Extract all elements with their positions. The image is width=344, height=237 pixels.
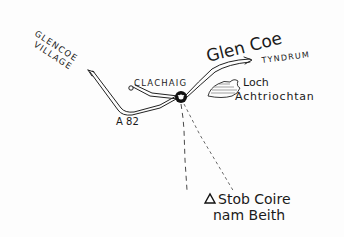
- label-loch-line2: Achtriochtan: [235, 90, 315, 103]
- label-clachaig: CLACHAIG: [134, 78, 187, 88]
- map-canvas: GLENCOE VILLAGE CLACHAIG A 82 Glen Coe T…: [0, 0, 344, 237]
- label-tyndrum: TYNDRUM: [260, 50, 310, 65]
- label-summit-line1: Stob Coire: [218, 191, 291, 207]
- road-a82-west: [88, 70, 178, 115]
- walking-route-paths: [181, 104, 234, 192]
- triangle-icon: [205, 194, 215, 203]
- summit-stob-coire-nam-beith: Stob Coire nam Beith: [205, 191, 291, 223]
- label-loch-line1: Loch: [243, 76, 269, 89]
- parking-junction-icon: [175, 91, 187, 103]
- sketch-map: GLENCOE VILLAGE CLACHAIG A 82 Glen Coe T…: [0, 0, 344, 237]
- label-summit-line2: nam Beith: [213, 207, 285, 223]
- label-a82: A 82: [116, 116, 139, 127]
